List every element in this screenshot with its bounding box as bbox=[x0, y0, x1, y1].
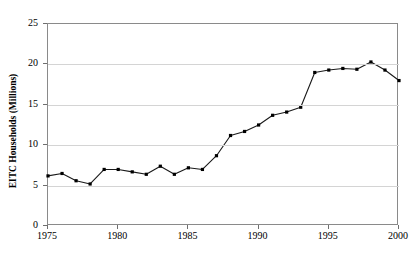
x-tick-mark-1985 bbox=[187, 225, 188, 229]
data-point-1976 bbox=[60, 172, 63, 175]
x-tick-label-1975: 1975 bbox=[27, 230, 67, 241]
data-point-1997 bbox=[355, 68, 358, 71]
data-point-2000 bbox=[397, 79, 400, 82]
gridline-y-15 bbox=[48, 105, 399, 106]
series-line-path bbox=[48, 62, 399, 184]
y-tick-label-10: 10 bbox=[4, 139, 38, 149]
data-point-1988 bbox=[229, 134, 232, 137]
data-point-1990 bbox=[257, 123, 260, 126]
data-point-1981 bbox=[131, 170, 134, 173]
gridline-y-10 bbox=[48, 145, 399, 146]
data-point-1992 bbox=[285, 110, 288, 113]
y-tick-mark-5 bbox=[43, 185, 47, 186]
x-tick-label-1995: 1995 bbox=[308, 230, 348, 241]
data-point-1999 bbox=[383, 68, 386, 71]
y-tick-mark-25 bbox=[43, 23, 47, 24]
data-point-1984 bbox=[173, 173, 176, 176]
x-tick-label-2000: 2000 bbox=[378, 230, 417, 241]
x-tick-mark-1995 bbox=[328, 225, 329, 229]
data-point-1996 bbox=[341, 67, 344, 70]
series-markers bbox=[46, 60, 400, 185]
data-point-1989 bbox=[243, 130, 246, 133]
x-tick-mark-1990 bbox=[258, 225, 259, 229]
data-point-1983 bbox=[159, 165, 162, 168]
y-tick-mark-15 bbox=[43, 104, 47, 105]
data-point-1977 bbox=[74, 179, 77, 182]
y-tick-label-25: 25 bbox=[4, 18, 38, 28]
data-point-1993 bbox=[299, 106, 302, 109]
y-tick-label-5: 5 bbox=[4, 180, 38, 190]
y-tick-label-0: 0 bbox=[4, 220, 38, 230]
x-tick-mark-1980 bbox=[117, 225, 118, 229]
line-series bbox=[48, 24, 399, 226]
x-tick-label-1980: 1980 bbox=[97, 230, 137, 241]
data-point-1980 bbox=[117, 168, 120, 171]
x-tick-label-1985: 1985 bbox=[167, 230, 207, 241]
data-point-1979 bbox=[103, 168, 106, 171]
x-tick-mark-2000 bbox=[398, 225, 399, 229]
data-point-1994 bbox=[313, 71, 316, 74]
data-point-1975 bbox=[46, 174, 49, 177]
gridline-y-20 bbox=[48, 64, 399, 65]
data-point-1995 bbox=[327, 68, 330, 71]
data-point-1986 bbox=[201, 168, 204, 171]
plot-area bbox=[47, 23, 398, 225]
y-tick-mark-10 bbox=[43, 144, 47, 145]
y-tick-label-15: 15 bbox=[4, 99, 38, 109]
x-tick-mark-1975 bbox=[47, 225, 48, 229]
data-point-1987 bbox=[215, 154, 218, 157]
y-tick-label-20: 20 bbox=[4, 58, 38, 68]
data-point-1985 bbox=[187, 166, 190, 169]
chart-title bbox=[0, 0, 417, 3]
x-tick-label-1990: 1990 bbox=[238, 230, 278, 241]
y-tick-mark-20 bbox=[43, 63, 47, 64]
gridline-y-5 bbox=[48, 186, 399, 187]
chart-figure: EITC Households (Millions) 0510152025197… bbox=[0, 0, 417, 256]
data-point-1982 bbox=[145, 173, 148, 176]
data-point-1991 bbox=[271, 114, 274, 117]
